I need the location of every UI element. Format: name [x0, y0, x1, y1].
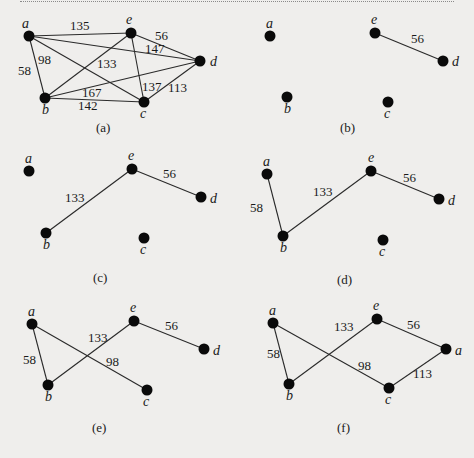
edge-weight-label: 58 [18, 63, 31, 78]
panel-f: 581339856113aeabc(f) [267, 298, 462, 435]
vertex-label: d [213, 343, 221, 358]
nearest-neighbor-graph-figure: 135147985856133137167142113aedbc(a)56aed… [0, 0, 474, 458]
vertex-d-dot-icon [434, 194, 445, 205]
vertex-label: b [42, 102, 49, 117]
vertex-e-dot-icon [370, 28, 381, 39]
vertex-label: e [368, 150, 374, 165]
vertex-label: d [452, 54, 460, 69]
edge-weight-label: 58 [267, 346, 280, 361]
edge-b-e [283, 171, 371, 236]
edge-weight-label: 98 [358, 358, 371, 373]
vertex-e-dot-icon [129, 316, 140, 327]
edge-weight-label: 133 [97, 56, 117, 71]
vertex-label: c [379, 244, 386, 259]
vertex-label: a [25, 151, 32, 166]
vertex-label: b [43, 237, 50, 252]
edge-a-c [273, 323, 389, 388]
edge-weight-label: 133 [313, 184, 333, 199]
vertex-label: d [448, 193, 456, 208]
edge-weight-label: 133 [88, 330, 108, 345]
vertex-a-dot-icon [262, 169, 273, 180]
vertex-label: d [210, 54, 218, 69]
vertex-d-dot-icon [196, 192, 207, 203]
edge-a-b [29, 36, 45, 98]
vertex-e-dot-icon [366, 166, 377, 177]
vertex-d-dot-icon [199, 344, 210, 355]
vertex-label: c [385, 392, 392, 407]
vertex-e-dot-icon [127, 164, 138, 175]
panel-caption: (d) [337, 272, 352, 287]
edge-weight-label: 58 [250, 200, 263, 215]
panel-b: 56aedbc(b) [265, 12, 461, 135]
vertex-label: c [140, 242, 147, 257]
vertex-label: b [286, 388, 293, 403]
vertex-label: a [269, 303, 276, 318]
vertex-e-dot-icon [126, 28, 137, 39]
edge-weight-label: 113 [413, 366, 432, 381]
edge-weight-label: 113 [168, 80, 187, 95]
edge-weight-label: 98 [106, 354, 119, 369]
vertex-label: d [210, 191, 218, 206]
vertex-label: c [140, 106, 147, 121]
vertex-label: b [280, 240, 287, 255]
vertex-d-dot-icon [438, 56, 449, 67]
edge-weight-label: 56 [411, 31, 425, 46]
figure-page: 135147985856133137167142113aedbc(a)56aed… [0, 0, 474, 458]
edge-weight-label: 133 [65, 190, 85, 205]
panel-e: 581339856aedbc(e) [23, 300, 221, 435]
vertex-e-dot-icon [372, 314, 383, 325]
vertex-label: e [373, 298, 379, 313]
vertex-a-dot-icon [27, 319, 38, 330]
edge-weight-label: 135 [70, 18, 90, 33]
edge-a-e [29, 33, 131, 36]
panel-caption: (f) [337, 420, 350, 435]
panel-d: 5813356aedbc(d) [250, 150, 456, 287]
vertex-label: e [128, 148, 134, 163]
vertex-label: e [130, 300, 136, 315]
panel-caption: (c) [93, 270, 107, 285]
vertex-label: e [371, 12, 377, 27]
panel-a: 135147985856133137167142113aedbc(a) [18, 12, 218, 135]
vertex-label: b [45, 389, 52, 404]
panel-c: 13356aedbc(c) [24, 148, 219, 285]
panel-caption: (e) [92, 420, 106, 435]
vertex-label: a [263, 154, 270, 169]
edge-weight-label: 142 [78, 98, 98, 113]
vertex-label: e [126, 12, 132, 27]
edge-weight-label: 56 [403, 170, 417, 185]
vertex-a-dot-icon [24, 31, 35, 42]
vertex-label: a [455, 343, 462, 358]
edge-weight-label: 133 [334, 319, 354, 334]
edge-weight-label: 137 [142, 79, 162, 94]
vertex-label: a [22, 16, 29, 31]
edge-weight-label: 56 [163, 166, 177, 181]
edge-weight-label: 56 [165, 318, 179, 333]
panel-caption: (a) [96, 120, 110, 135]
panel-caption: (b) [340, 120, 355, 135]
vertex-label: a [266, 16, 273, 31]
vertex-d-dot-icon [195, 56, 206, 67]
edge-weight-label: 98 [38, 52, 51, 67]
vertex-label: a [28, 304, 35, 319]
edge-e-d [375, 33, 443, 61]
vertex-label: c [143, 394, 150, 409]
vertex-label: c [384, 106, 391, 121]
edge-weight-label: 58 [23, 352, 36, 367]
vertex-a-dot-icon [24, 166, 35, 177]
edge-e-b [46, 169, 132, 233]
vertex-label: b [284, 101, 291, 116]
vertex-a-dot-icon [441, 344, 452, 355]
vertex-a-dot-icon [265, 31, 276, 42]
edge-weight-label: 56 [155, 28, 169, 43]
vertex-a-dot-icon [268, 318, 279, 329]
edge-a-b [267, 174, 283, 236]
edge-weight-label: 56 [407, 317, 421, 332]
